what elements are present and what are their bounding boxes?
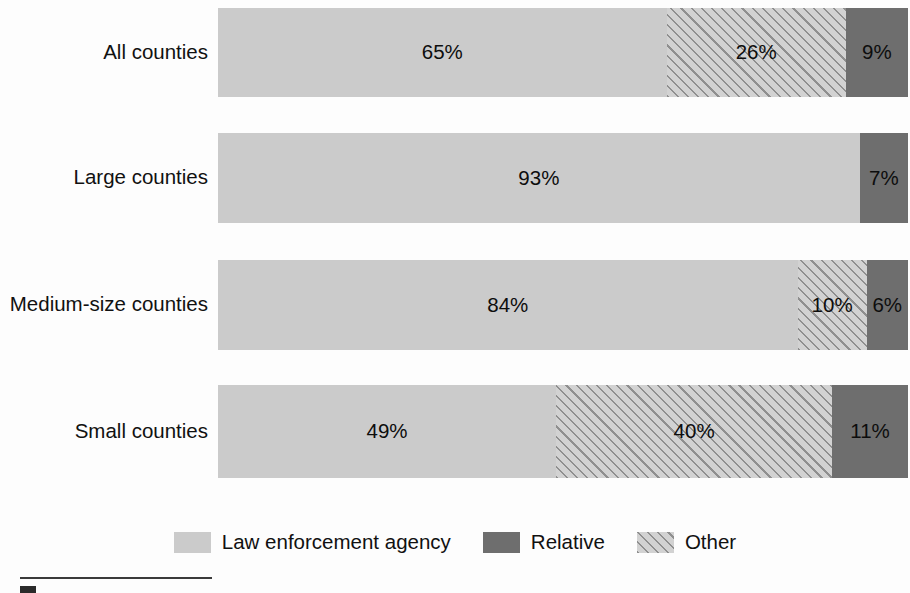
bar-track: 49%40%11% — [218, 385, 908, 478]
bar-segment-relative: 7% — [860, 133, 908, 223]
bar-row: Medium-size counties84%10%6% — [0, 260, 910, 350]
bar-segment-law: 65% — [218, 8, 667, 97]
bar-segment-value-label: 9% — [862, 42, 892, 63]
bar-segment-value-label: 11% — [850, 421, 890, 442]
bar-segment-relative: 6% — [867, 260, 908, 350]
legend-item-law[interactable]: Law enforcement agency — [174, 532, 451, 553]
bar-segment-value-label: 7% — [869, 168, 899, 189]
bar-category-label: Small counties — [0, 421, 208, 442]
bar-segment-other: 10% — [798, 260, 867, 350]
bar-segment-value-label: 6% — [872, 295, 902, 316]
legend-label: Law enforcement agency — [222, 532, 451, 553]
bar-segment-other: 26% — [667, 8, 846, 97]
legend-item-other[interactable]: Other — [637, 532, 736, 553]
bar-segment-value-label: 26% — [736, 42, 777, 63]
bar-track: 93%7% — [218, 133, 908, 223]
bar-segment-relative: 9% — [846, 8, 908, 97]
footnote-divider — [20, 577, 212, 579]
bar-segment-law: 93% — [218, 133, 860, 223]
bar-category-label: Large counties — [0, 167, 208, 188]
bar-row: All counties65%26%9% — [0, 8, 910, 97]
bar-segment-other: 40% — [556, 385, 832, 478]
legend-label: Other — [685, 532, 736, 553]
footnote-marker-icon — [20, 586, 36, 593]
legend-swatch-other-icon — [637, 532, 674, 553]
chart-legend: Law enforcement agencyRelativeOther — [0, 525, 910, 559]
chart-figure: All counties65%26%9%Large counties93%7%M… — [0, 0, 910, 593]
bar-segment-value-label: 84% — [487, 295, 528, 316]
bar-segment-value-label: 49% — [367, 421, 408, 442]
legend-swatch-law-icon — [174, 532, 211, 553]
legend-swatch-relative-icon — [483, 532, 520, 553]
bar-track: 84%10%6% — [218, 260, 908, 350]
bar-segment-law: 84% — [218, 260, 798, 350]
legend-item-relative[interactable]: Relative — [483, 532, 605, 553]
bar-track: 65%26%9% — [218, 8, 908, 97]
bar-segment-value-label: 65% — [422, 42, 463, 63]
bar-category-label: All counties — [0, 42, 208, 63]
bar-segment-value-label: 93% — [518, 168, 559, 189]
bar-category-label: Medium-size counties — [0, 294, 208, 315]
legend-label: Relative — [531, 532, 605, 553]
chart-plot-area: All counties65%26%9%Large counties93%7%M… — [0, 0, 910, 500]
bar-segment-value-label: 10% — [812, 295, 853, 316]
bar-row: Large counties93%7% — [0, 133, 910, 223]
bar-segment-relative: 11% — [832, 385, 908, 478]
bar-row: Small counties49%40%11% — [0, 385, 910, 478]
bar-segment-law: 49% — [218, 385, 556, 478]
bar-segment-value-label: 40% — [674, 421, 715, 442]
